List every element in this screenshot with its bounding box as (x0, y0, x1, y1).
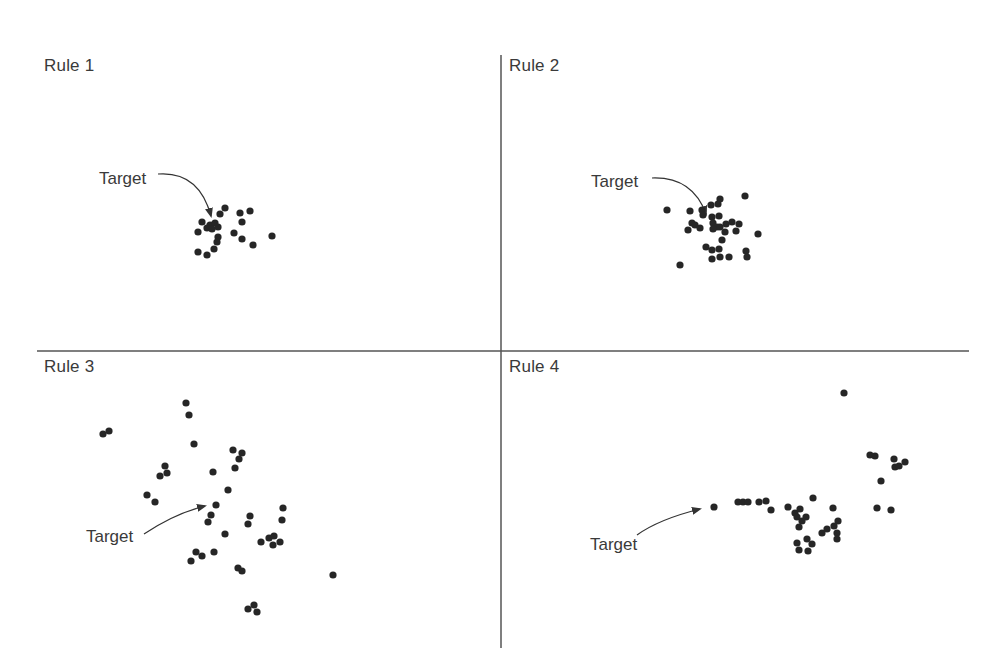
hit-dot (873, 504, 880, 511)
hit-dot (190, 440, 197, 447)
hit-dot (708, 246, 715, 253)
hit-dot (185, 411, 192, 418)
hit-dot (686, 207, 693, 214)
hit-dot (796, 505, 803, 512)
hit-dot (246, 207, 253, 214)
hit-dot (901, 458, 908, 465)
hit-dot (210, 245, 217, 252)
hit-dot (253, 608, 260, 615)
rule-4-scatter (637, 389, 909, 554)
hit-dot (203, 251, 210, 258)
diagram-canvas (0, 0, 1001, 659)
hit-dot (210, 548, 217, 555)
hit-dot (715, 245, 722, 252)
hit-dot (735, 220, 742, 227)
hit-dot (238, 218, 245, 225)
rule-1-scatter (158, 174, 276, 259)
hit-dot (877, 477, 884, 484)
target-arrow-icon (144, 506, 205, 534)
hit-dot (725, 253, 732, 260)
rules-diagram: Rule 1 Rule 2 Rule 3 Rule 4 Target Targe… (0, 0, 1001, 659)
hit-dot (808, 540, 815, 547)
hit-dot (278, 516, 285, 523)
hit-dot (235, 455, 242, 462)
hit-dot (270, 532, 277, 539)
hit-dot (156, 472, 163, 479)
hit-dot (276, 538, 283, 545)
hit-dot (198, 552, 205, 559)
hit-dot (684, 226, 691, 233)
hit-dot (105, 427, 112, 434)
hit-dot (732, 227, 739, 234)
hit-dot (269, 541, 276, 548)
hit-dot (754, 230, 761, 237)
hit-dot (743, 253, 750, 260)
hit-dot (721, 228, 728, 235)
hit-dot (230, 229, 237, 236)
hit-dot (762, 497, 769, 504)
hit-dot (767, 506, 774, 513)
hit-dot (212, 501, 219, 508)
hit-dot (216, 210, 223, 217)
target-arrow-icon (158, 174, 211, 216)
hit-dot (895, 462, 902, 469)
hit-dot (795, 546, 802, 553)
hit-dot (871, 452, 878, 459)
rule-1-target-label: Target (99, 169, 146, 189)
hit-dot (793, 539, 800, 546)
hit-dot (213, 238, 220, 245)
hit-dot (192, 548, 199, 555)
hit-dot (833, 535, 840, 542)
hit-dot (804, 547, 811, 554)
hit-dot (244, 605, 251, 612)
hit-dot (250, 601, 257, 608)
hit-dot (716, 195, 723, 202)
hit-dot (887, 506, 894, 513)
rule-2-label: Rule 2 (509, 56, 559, 76)
hit-dot (279, 504, 286, 511)
rule-4-target-label: Target (590, 535, 637, 555)
hit-dot (207, 511, 214, 518)
hit-dot (823, 525, 830, 532)
hit-dot (728, 218, 735, 225)
hit-dot (890, 455, 897, 462)
hit-dot (663, 206, 670, 213)
hit-dot (163, 469, 170, 476)
hit-dot (707, 201, 714, 208)
hit-dot (699, 211, 706, 218)
hit-dot (204, 518, 211, 525)
rule-3-target-label: Target (86, 527, 133, 547)
hit-dot (744, 498, 751, 505)
hit-dot (696, 224, 703, 231)
hit-dot (231, 464, 238, 471)
hit-dot (194, 248, 201, 255)
hit-dot (755, 498, 762, 505)
rule-2-target-label: Target (591, 172, 638, 192)
hit-dot (221, 204, 228, 211)
hit-dot (676, 261, 683, 268)
hit-dot (224, 486, 231, 493)
hit-dot (834, 517, 841, 524)
hit-dot (161, 462, 168, 469)
hit-dot (268, 232, 275, 239)
hit-dot (829, 504, 836, 511)
hit-dot (784, 503, 791, 510)
hit-dot (236, 209, 243, 216)
hit-dot (257, 538, 264, 545)
hit-dot (182, 399, 189, 406)
hit-dot (716, 253, 723, 260)
hit-dot (143, 491, 150, 498)
hit-dot (221, 530, 228, 537)
target-arrow-icon (637, 509, 700, 535)
rule-4-label: Rule 4 (509, 357, 559, 377)
hit-dot (198, 218, 205, 225)
hit-dot (238, 567, 245, 574)
hit-dot (718, 236, 725, 243)
hit-dot (238, 235, 245, 242)
hit-dot (795, 523, 802, 530)
hit-dot (209, 468, 216, 475)
hit-dot (742, 247, 749, 254)
rule-1-label: Rule 1 (44, 56, 94, 76)
hit-dot (244, 520, 251, 527)
hit-dot (708, 255, 715, 262)
